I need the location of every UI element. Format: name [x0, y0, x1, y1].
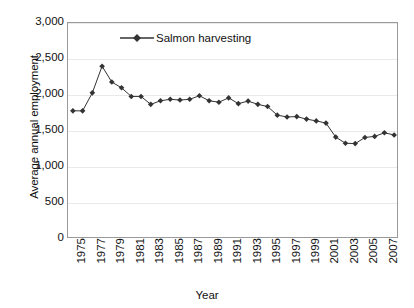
x-axis-tick-label: 1975	[76, 238, 88, 284]
series-line	[73, 66, 394, 143]
x-axis-tick-label: 1991	[232, 238, 244, 284]
chart-figure: Average annual employment 05001,0001,500…	[0, 0, 414, 308]
y-axis-tick-label: 3,000	[20, 16, 64, 28]
data-point-marker	[80, 108, 86, 114]
y-axis-tick-label: 1,000	[20, 160, 64, 172]
data-point-marker	[245, 98, 251, 104]
x-axis-tick-label: 1995	[271, 238, 283, 284]
x-axis-tick-label: 2005	[368, 238, 380, 284]
y-axis-tick-labels: 05001,0001,5002,0002,5003,000	[18, 0, 64, 308]
data-point-marker	[313, 118, 319, 124]
data-point-marker	[216, 99, 222, 105]
data-point-marker	[294, 114, 300, 120]
x-axis-tick-label: 1977	[96, 238, 108, 284]
plot-area: Salmon harvesting	[67, 22, 398, 238]
x-axis-tick-label: 1987	[193, 238, 205, 284]
x-axis-title: Year	[0, 289, 414, 301]
data-point-marker	[158, 98, 164, 104]
y-axis-tick-label: 500	[20, 196, 64, 208]
x-axis-tick-label: 1999	[310, 238, 322, 284]
data-point-marker	[255, 102, 261, 108]
x-axis-tick-label: 1981	[135, 238, 147, 284]
x-axis-tick-label: 1997	[291, 238, 303, 284]
data-point-marker	[236, 101, 242, 107]
x-axis-tick-label: 1983	[154, 238, 166, 284]
data-point-marker	[382, 130, 388, 136]
data-point-marker	[304, 116, 310, 122]
data-series-salmon-harvesting	[68, 23, 399, 239]
x-axis-tick-label: 1979	[115, 238, 127, 284]
data-point-marker	[177, 97, 183, 103]
data-point-marker	[343, 140, 349, 146]
y-axis-tick-label: 2,500	[20, 52, 64, 64]
x-axis-tick-label: 1993	[252, 238, 264, 284]
x-axis-tick-labels: 1975197719791981198319851987198919911993…	[67, 240, 398, 286]
data-point-marker	[109, 79, 115, 85]
y-axis-tick-label: 0	[20, 232, 64, 244]
data-point-marker	[167, 97, 173, 103]
data-point-marker	[206, 98, 212, 104]
data-point-marker	[284, 114, 290, 120]
y-axis-tick-label: 1,500	[20, 124, 64, 136]
x-axis-tick-label: 1989	[213, 238, 225, 284]
data-point-marker	[352, 141, 358, 147]
data-point-marker	[226, 95, 232, 101]
data-point-marker	[391, 132, 397, 138]
x-axis-tick-label: 2007	[388, 238, 400, 284]
y-axis-tick-label: 2,000	[20, 88, 64, 100]
data-point-marker	[362, 135, 368, 141]
x-axis-tick-label: 2003	[349, 238, 361, 284]
data-point-marker	[99, 63, 105, 69]
data-point-marker	[70, 108, 76, 114]
data-point-marker	[197, 93, 203, 99]
x-axis-tick-label: 2001	[329, 238, 341, 284]
data-point-marker	[90, 90, 96, 96]
data-point-marker	[372, 134, 378, 140]
data-point-marker	[187, 97, 193, 103]
x-axis-tick-label: 1985	[174, 238, 186, 284]
